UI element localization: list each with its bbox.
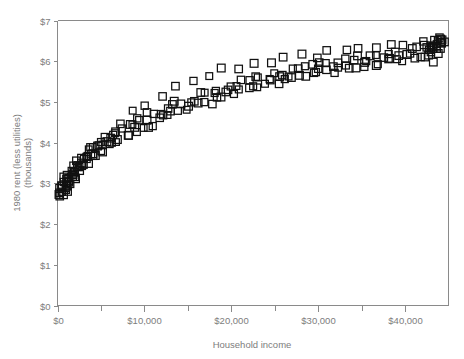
y-tick-label: $4: [40, 138, 51, 149]
scatter-point: [136, 117, 143, 124]
y-axis-title-line2: (thousands): [22, 138, 33, 188]
scatter-point: [354, 45, 361, 52]
scatter-point: [323, 66, 330, 73]
scatter-point: [399, 41, 406, 48]
scatter-point: [206, 73, 213, 80]
x-axis-title: Household income: [213, 339, 292, 350]
scatter-point: [125, 132, 132, 139]
data-markers: [55, 34, 448, 200]
y-tick-label: $1: [40, 260, 51, 271]
scatter-point: [388, 41, 396, 49]
y-axis-title-group: 1980 rent (less utilities) (thousands): [11, 114, 33, 212]
y-tick-label: $6: [40, 56, 51, 67]
scatter-point: [298, 50, 306, 58]
scatter-point: [342, 55, 349, 62]
x-tick-label: $40,000: [388, 315, 422, 326]
y-tick-label: $0: [40, 301, 51, 312]
y-tick-label: $3: [40, 178, 51, 189]
y-axis-ticks: $0$1$2$3$4$5$6$7: [40, 16, 58, 312]
scatter-point: [343, 46, 350, 53]
scatter-point: [323, 47, 330, 54]
scatter-point: [268, 59, 276, 67]
chart-canvas: $0$1$2$3$4$5$6$7 $0$10,000$20,000$30,000…: [0, 0, 464, 359]
scatter-point: [172, 82, 179, 89]
x-tick-label: $30,000: [301, 315, 335, 326]
scatter-plot-figure: $0$1$2$3$4$5$6$7 $0$10,000$20,000$30,000…: [0, 0, 464, 359]
x-tick-label: $20,000: [214, 315, 248, 326]
scatter-point: [133, 129, 140, 136]
scatter-point: [373, 44, 381, 52]
scatter-point: [279, 53, 287, 61]
y-tick-label: $7: [40, 16, 51, 27]
scatter-point: [159, 93, 166, 100]
scatter-point: [235, 65, 242, 72]
scatter-point: [217, 64, 225, 72]
y-tick-label: $2: [40, 219, 51, 230]
scatter-point: [140, 125, 147, 132]
scatter-point: [129, 107, 136, 114]
scatter-point: [250, 59, 258, 67]
x-tick-label: $10,000: [127, 315, 161, 326]
x-tick-label: $0: [53, 315, 64, 326]
x-axis-ticks: $0$10,000$20,000$30,000$40,000: [53, 306, 422, 326]
y-tick-label: $5: [40, 97, 51, 108]
y-axis-title-line1: 1980 rent (less utilities): [11, 114, 22, 212]
scatter-point: [190, 77, 197, 84]
